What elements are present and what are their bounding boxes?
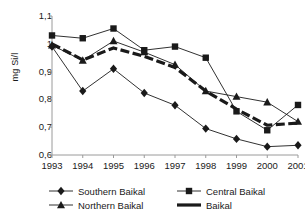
data-point-square <box>233 108 239 114</box>
legend-item-central-baikal[interactable]: Central Baikal <box>176 185 296 197</box>
legend-symbol-diamond-icon <box>48 185 74 197</box>
data-point-square <box>203 55 209 61</box>
x-tick-label: 1994 <box>66 160 100 171</box>
series-line-northern-baikal <box>52 41 298 122</box>
data-point-diamond <box>264 142 271 150</box>
data-point-square <box>49 32 55 38</box>
data-point-diamond <box>294 141 301 149</box>
x-tick-label: 2001 <box>281 160 305 171</box>
x-tick-label: 1995 <box>97 160 131 171</box>
data-point-diamond <box>141 89 148 97</box>
data-point-square <box>172 43 178 49</box>
chart-legend: Southern BaikalCentral BaikalNorthern Ba… <box>48 185 298 211</box>
data-point-triangle <box>110 37 118 44</box>
x-tick-label: 1999 <box>220 160 254 171</box>
data-point-diamond <box>202 124 209 132</box>
legend-label: Northern Baikal <box>78 200 143 211</box>
legend-symbol-triangle-icon <box>48 199 74 211</box>
series-line-baikal <box>52 44 298 125</box>
data-point-diamond <box>233 135 240 143</box>
legend-label: Southern Baikal <box>78 186 145 197</box>
x-tick-label: 1998 <box>189 160 223 171</box>
x-tick-label: 1996 <box>127 160 161 171</box>
x-tick-label: 1993 <box>35 160 69 171</box>
legend-symbol-thickline-icon <box>176 199 202 211</box>
x-tick-label: 2000 <box>250 160 284 171</box>
data-point-square <box>264 127 270 133</box>
data-point-triangle <box>171 60 179 67</box>
legend-item-baikal[interactable]: Baikal <box>176 199 296 211</box>
data-point-square <box>110 25 116 31</box>
legend-label: Central Baikal <box>206 186 265 197</box>
legend-label: Baikal <box>206 200 232 211</box>
legend-item-southern-baikal[interactable]: Southern Baikal <box>48 185 176 197</box>
data-point-square <box>80 35 86 41</box>
legend-item-northern-baikal[interactable]: Northern Baikal <box>48 199 176 211</box>
data-point-square <box>295 102 301 108</box>
silica-concentration-line-chart: mg Si/l 1,110,90,80,70,6 Southern Baikal… <box>0 0 305 224</box>
x-tick-label: 1997 <box>158 160 192 171</box>
legend-symbol-square-icon <box>176 185 202 197</box>
data-point-diamond <box>110 65 117 73</box>
data-point-diamond <box>171 101 178 109</box>
data-point-triangle <box>294 117 302 124</box>
